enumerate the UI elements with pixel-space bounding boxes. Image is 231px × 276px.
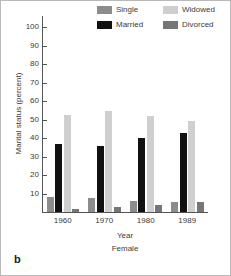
bar-widowed-1970 bbox=[105, 111, 112, 212]
bar-widowed-1960 bbox=[64, 115, 71, 212]
bar-divorced-1980 bbox=[155, 205, 162, 212]
bar-married-1960 bbox=[55, 144, 62, 212]
x-axis-line bbox=[42, 212, 208, 213]
x-axis-title: Year bbox=[42, 231, 208, 240]
panel-label: b bbox=[14, 253, 21, 265]
y-tick-label-100: 100 bbox=[17, 23, 39, 31]
bar-married-1970 bbox=[97, 146, 104, 213]
figure-panel-b: Single Widowed Married Divorced 10203040… bbox=[0, 0, 231, 276]
y-axis-title: Marital status (percent) bbox=[14, 54, 23, 174]
chart-subtitle: Female bbox=[42, 244, 208, 253]
bar-group-1980 bbox=[125, 18, 167, 212]
y-tick-label-10: 10 bbox=[17, 190, 39, 198]
y-tick-label-90: 90 bbox=[17, 42, 39, 50]
x-tick-label-1960: 1960 bbox=[43, 216, 83, 225]
plot-area: 102030405060708090100 Marital status (pe… bbox=[1, 1, 231, 276]
bar-group-1989 bbox=[167, 18, 209, 212]
bar-single-1980 bbox=[130, 201, 137, 212]
x-tick-label-1989: 1989 bbox=[167, 216, 207, 225]
bars-layer bbox=[42, 18, 208, 212]
bar-widowed-1980 bbox=[147, 116, 154, 212]
x-tick-label-1980: 1980 bbox=[126, 216, 166, 225]
bar-divorced-1989 bbox=[197, 202, 204, 212]
bar-group-1960 bbox=[42, 18, 84, 212]
bar-single-1970 bbox=[88, 198, 95, 212]
bar-married-1989 bbox=[180, 133, 187, 212]
bar-single-1960 bbox=[47, 197, 54, 212]
bar-widowed-1989 bbox=[188, 121, 195, 212]
bar-single-1989 bbox=[171, 202, 178, 212]
bar-married-1980 bbox=[138, 138, 145, 212]
bar-divorced-1960 bbox=[72, 209, 79, 212]
bar-divorced-1970 bbox=[114, 207, 121, 212]
bar-group-1970 bbox=[84, 18, 126, 212]
x-tick-label-1970: 1970 bbox=[84, 216, 124, 225]
